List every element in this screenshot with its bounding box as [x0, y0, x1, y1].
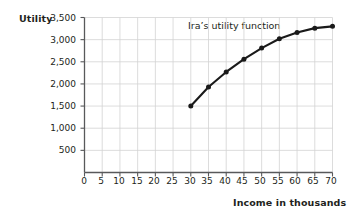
plot-area — [0, 0, 350, 216]
utility-function-chart: Utility Income in thousands Ira’s utilit… — [0, 0, 350, 216]
vertical-gridlines — [102, 18, 332, 173]
